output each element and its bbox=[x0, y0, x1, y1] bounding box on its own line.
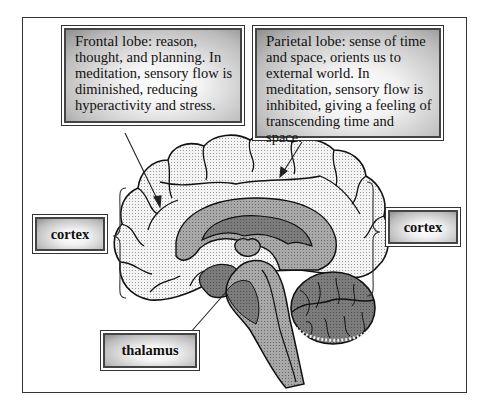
cortex-label-left: cortex bbox=[32, 214, 108, 254]
thalamus-label: thalamus bbox=[100, 330, 200, 371]
frontal-lobe-callout: Frontal lobe: reason, thought, and plann… bbox=[61, 25, 245, 126]
cortex-label-right: cortex bbox=[385, 207, 461, 247]
frontal-lobe-title: Frontal lobe: bbox=[75, 33, 152, 49]
parietal-lobe-description: sense of time and space, orients us to e… bbox=[266, 33, 432, 145]
cortex-label-left-text: cortex bbox=[35, 217, 105, 251]
parietal-lobe-callout: Parietal lobe: sense of time and space, … bbox=[252, 25, 444, 141]
frontal-lobe-text: Frontal lobe: reason, thought, and plann… bbox=[64, 28, 242, 123]
parietal-lobe-text: Parietal lobe: sense of time and space, … bbox=[255, 28, 441, 138]
parietal-lobe-title: Parietal lobe: bbox=[266, 33, 346, 49]
thalamus-label-text: thalamus bbox=[103, 333, 197, 368]
thalamus-region bbox=[235, 239, 260, 257]
cerebellum bbox=[291, 272, 375, 344]
cortex-label-right-text: cortex bbox=[388, 210, 458, 244]
